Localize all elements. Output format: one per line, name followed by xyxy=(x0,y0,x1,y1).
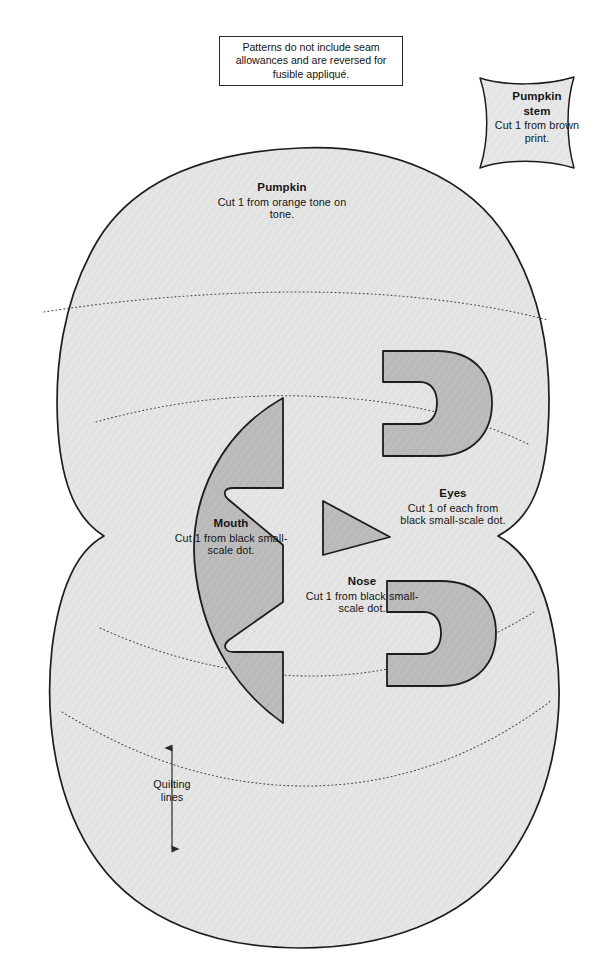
quilting-label-line2: lines xyxy=(136,791,208,804)
piece-title-stem-line1: Pumpkin xyxy=(485,90,589,104)
piece-title-nose: Nose xyxy=(296,575,428,589)
piece-title-eyes: Eyes xyxy=(398,487,508,501)
annotation-label-quilting-lines: Quilting lines xyxy=(136,778,208,804)
quilting-label-line1: Quilting xyxy=(136,778,208,791)
piece-label-eyes: Eyes Cut 1 of each from black small-scal… xyxy=(398,487,508,527)
piece-label-mouth: Mouth Cut 1 from black small-scale dot. xyxy=(166,517,296,557)
pattern-note-box: Patterns do not include seam allowances … xyxy=(219,36,403,86)
piece-title-stem-line2: stem xyxy=(485,105,589,119)
piece-label-nose: Nose Cut 1 from black small-scale dot. xyxy=(296,575,428,615)
pattern-sheet: Patterns do not include seam allowances … xyxy=(0,0,614,973)
pattern-artwork xyxy=(0,0,614,973)
piece-shape-pumpkin xyxy=(50,148,559,948)
piece-label-stem: Pumpkin stem Cut 1 from brown print. xyxy=(485,90,589,145)
piece-title-mouth: Mouth xyxy=(166,517,296,531)
piece-instruction-mouth: Cut 1 from black small-scale dot. xyxy=(166,532,296,557)
pattern-note-text: Patterns do not include seam allowances … xyxy=(220,41,402,82)
piece-instruction-eyes: Cut 1 of each from black small-scale dot… xyxy=(398,502,508,527)
piece-instruction-stem: Cut 1 from brown print. xyxy=(485,119,589,144)
piece-label-pumpkin: Pumpkin Cut 1 from orange tone on tone. xyxy=(212,181,352,221)
piece-instruction-pumpkin: Cut 1 from orange tone on tone. xyxy=(212,196,352,221)
piece-title-pumpkin: Pumpkin xyxy=(212,181,352,195)
piece-instruction-nose: Cut 1 from black small-scale dot. xyxy=(296,590,428,615)
